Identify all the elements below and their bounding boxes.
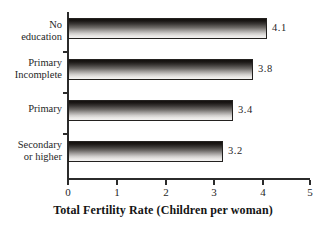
category-label: Secondary or higher bbox=[0, 139, 62, 162]
x-axis-tick-label: 4 bbox=[253, 186, 273, 198]
x-axis-tick bbox=[67, 180, 69, 185]
category-label-line: Primary bbox=[0, 103, 62, 115]
x-axis-tick-label: 1 bbox=[107, 186, 127, 198]
bar bbox=[68, 100, 233, 121]
chart-row: Secondary or higher 3.2 bbox=[0, 135, 326, 176]
plot-area: No education 4.1 Primary Incomplete 3.8 … bbox=[0, 0, 326, 225]
category-label: Primary bbox=[0, 103, 62, 115]
x-axis-tick bbox=[213, 180, 215, 185]
chart-row: No education 4.1 bbox=[0, 12, 326, 53]
x-axis-tick bbox=[309, 180, 311, 185]
x-axis-line bbox=[67, 178, 310, 180]
bar-value-label: 3.4 bbox=[238, 104, 253, 115]
fertility-bar-chart: No education 4.1 Primary Incomplete 3.8 … bbox=[0, 0, 326, 225]
chart-row: Primary 3.4 bbox=[0, 94, 326, 135]
category-label-line: or higher bbox=[0, 151, 62, 163]
x-axis-tick-label: 5 bbox=[300, 186, 320, 198]
category-label-line: Incomplete bbox=[0, 69, 62, 81]
x-axis-tick-label: 0 bbox=[58, 186, 78, 198]
x-axis-title: Total Fertility Rate (Children per woman… bbox=[0, 203, 326, 218]
x-axis-tick bbox=[116, 180, 118, 185]
category-label: No education bbox=[0, 19, 62, 42]
bar bbox=[68, 18, 267, 39]
chart-row: Primary Incomplete 3.8 bbox=[0, 53, 326, 94]
bar-value-label: 3.2 bbox=[228, 145, 243, 156]
category-label-line: Secondary bbox=[0, 139, 62, 151]
category-label-line: Primary bbox=[0, 57, 62, 69]
x-axis-tick-label: 3 bbox=[204, 186, 224, 198]
y-axis-tick bbox=[63, 92, 68, 94]
y-axis-tick bbox=[63, 51, 68, 53]
bar-value-label: 3.8 bbox=[258, 63, 273, 74]
category-label: Primary Incomplete bbox=[0, 57, 62, 80]
bar bbox=[68, 59, 253, 80]
bar bbox=[68, 141, 223, 162]
y-axis-tick bbox=[63, 133, 68, 135]
bar-value-label: 4.1 bbox=[272, 22, 287, 33]
category-label-line: education bbox=[0, 31, 62, 43]
x-axis-tick bbox=[262, 180, 264, 185]
category-label-line: No bbox=[0, 19, 62, 31]
x-axis-tick bbox=[165, 180, 167, 185]
x-axis-tick-label: 2 bbox=[156, 186, 176, 198]
